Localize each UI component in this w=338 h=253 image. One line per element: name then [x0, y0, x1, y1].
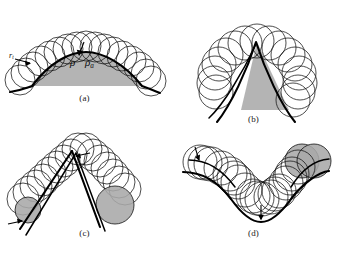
panel-d-caption: (d)	[169, 228, 338, 238]
highlight-circle-c	[96, 186, 134, 224]
panel-b-drawing	[169, 0, 338, 126]
surface-curve-c2	[72, 151, 100, 227]
shaded-region-b	[241, 42, 289, 110]
figure-root: ρ ρa rt	[0, 0, 338, 253]
arrow-d-bottom	[258, 205, 264, 221]
panel-a: ρ ρa rt	[0, 0, 169, 126]
panel-b-caption: (b)	[169, 114, 338, 124]
surface-curve-c	[20, 151, 72, 229]
panel-a-caption: (a)	[0, 93, 169, 103]
panel-b	[169, 0, 338, 126]
panel-c-caption: (c)	[0, 228, 169, 238]
label-rho-panel-a: ρ	[70, 57, 75, 68]
arrow-d-left	[195, 147, 200, 161]
label-rt-panel-a: rt	[9, 52, 14, 61]
highlight-circle-c-left	[15, 197, 41, 223]
label-rho-a-panel-a: ρa	[85, 57, 94, 70]
